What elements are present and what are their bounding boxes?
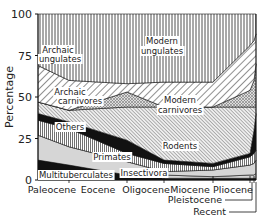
- series-label: Insectivora: [121, 168, 168, 178]
- stacked-area-chart: 0255075100PercentagePaleoceneEoceneOligo…: [0, 0, 262, 224]
- series-label: Multituberculates: [39, 170, 114, 180]
- y-tick-label: 75: [18, 50, 32, 63]
- series-label: carnivores: [58, 96, 103, 106]
- y-tick-label: 25: [18, 133, 32, 146]
- x-epoch-label: Eocene: [81, 184, 116, 195]
- series-label: ungulates: [39, 54, 82, 64]
- series-label: Others: [56, 122, 85, 132]
- y-tick-label: 50: [18, 91, 32, 104]
- series-label: Primates: [93, 152, 131, 162]
- series-label: carnivores: [158, 105, 203, 115]
- x-callout-label: Pleistocene: [168, 194, 222, 205]
- series-label: Rodents: [163, 141, 198, 151]
- x-epoch-label: Paleocene: [28, 184, 77, 195]
- y-axis-label: Percentage: [3, 66, 16, 128]
- series-label: Modern: [146, 36, 178, 46]
- series-label: Modern: [164, 95, 196, 105]
- y-tick-label: 100: [11, 8, 32, 21]
- x-epoch-label: Oligocene: [122, 184, 170, 195]
- x-callout-label: Recent: [193, 206, 226, 217]
- series-label: ungulates: [141, 46, 184, 56]
